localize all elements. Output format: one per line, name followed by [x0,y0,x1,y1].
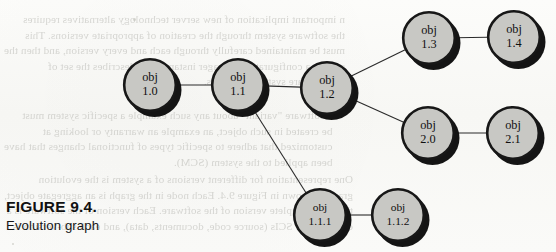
node-label-line1: obj [313,201,328,213]
node-label-line2: 2.1 [505,132,520,146]
graph-node-obj-1-2[interactable]: obj1.2 [301,62,358,120]
scanned-page: n important implication of new server te… [0,0,556,252]
figure-caption-title: FIGURE 9.4. [6,198,196,216]
graph-edge-obj-1-2-to-obj-1-3 [350,49,405,76]
node-label-line2: 1.1 [230,84,245,98]
figure-caption: FIGURE 9.4. Evolution graph [6,198,196,234]
graph-node-obj-2-1[interactable]: obj2.1 [487,107,544,165]
graph-edge-obj-1-1-to-obj-1-1-1 [252,107,306,193]
graph-node-obj-1-4[interactable]: obj1.4 [488,11,545,69]
node-label-line1: obj [142,70,158,84]
node-label-line2: 2.0 [420,132,435,146]
figure-caption-subtitle: Evolution graph [6,217,196,234]
node-label-line2: 1.0 [142,84,157,98]
node-label-line2: 1.1.2 [387,215,410,227]
node-label-line2: 1.3 [421,37,436,51]
graph-node-obj-2-0[interactable]: obj2.0 [402,107,459,165]
graph-node-obj-1-3[interactable]: obj1.3 [403,12,460,70]
node-label-line1: obj [230,70,246,84]
graph-edge-obj-1-1-to-obj-1-2 [264,86,301,87]
node-label-line1: obj [319,73,335,87]
node-label-line1: obj [420,118,436,132]
node-label-line1: obj [506,22,522,36]
graph-node-obj-1-0[interactable]: obj1.0 [124,59,181,117]
graph-node-obj-1-1[interactable]: obj1.1 [212,59,269,117]
graph-node-obj-1-1-2[interactable]: obj1.1.2 [372,189,429,247]
node-label-line2: 1.2 [319,87,334,101]
node-label-line1: obj [391,201,406,213]
graph-node-obj-1-1-1[interactable]: obj1.1.1 [294,189,351,247]
node-label-line1: obj [421,23,437,37]
node-label-line2: 1.4 [506,36,521,50]
node-label-line2: 1.1.1 [309,215,332,227]
graph-edge-obj-1-2-to-obj-2-0 [351,99,405,123]
node-label-line1: obj [505,118,521,132]
